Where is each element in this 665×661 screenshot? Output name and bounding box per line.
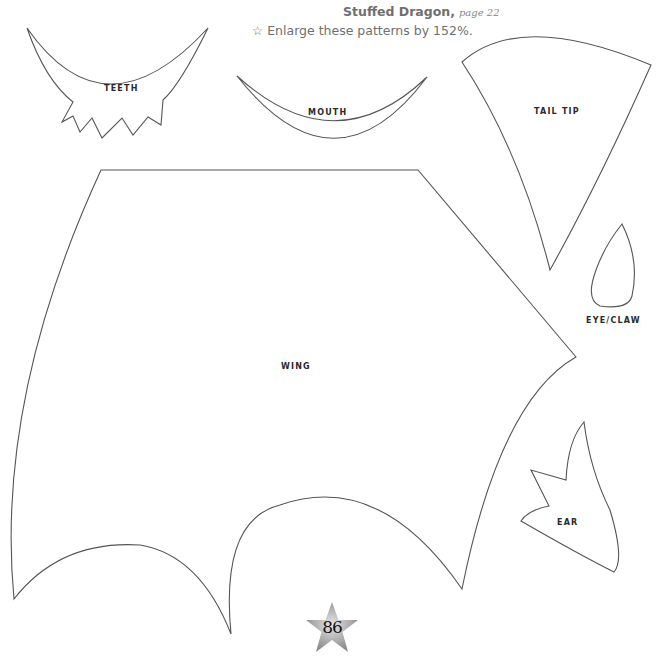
star-outline-icon: ☆ xyxy=(252,23,263,38)
wing-pattern xyxy=(11,170,576,634)
title-bold: Stuffed Dragon, xyxy=(343,4,455,19)
subtitle: ☆ Enlarge these patterns by 152%. xyxy=(252,23,473,38)
tail-tip-label: TAIL TIP xyxy=(534,107,580,116)
teeth-label: TEETH xyxy=(104,84,139,93)
mouth-label: MOUTH xyxy=(308,108,347,117)
title-page-ref: page 22 xyxy=(459,7,500,18)
page-number: 86 xyxy=(304,617,360,637)
page-number-badge: 86 xyxy=(304,600,360,656)
ear-label: EAR xyxy=(557,518,578,527)
wing-label: WING xyxy=(281,362,311,371)
teeth-pattern xyxy=(27,28,208,138)
ear-pattern xyxy=(521,422,619,572)
eye-claw-label: EYE/CLAW xyxy=(586,316,641,325)
eye-claw-pattern xyxy=(591,224,634,307)
pattern-page: Stuffed Dragon, page 22 ☆ Enlarge these … xyxy=(0,0,665,661)
tail-tip-pattern xyxy=(462,37,651,270)
subtitle-text: Enlarge these patterns by 152%. xyxy=(267,23,473,38)
pattern-outlines xyxy=(0,0,665,661)
page-title: Stuffed Dragon, page 22 xyxy=(343,4,500,19)
